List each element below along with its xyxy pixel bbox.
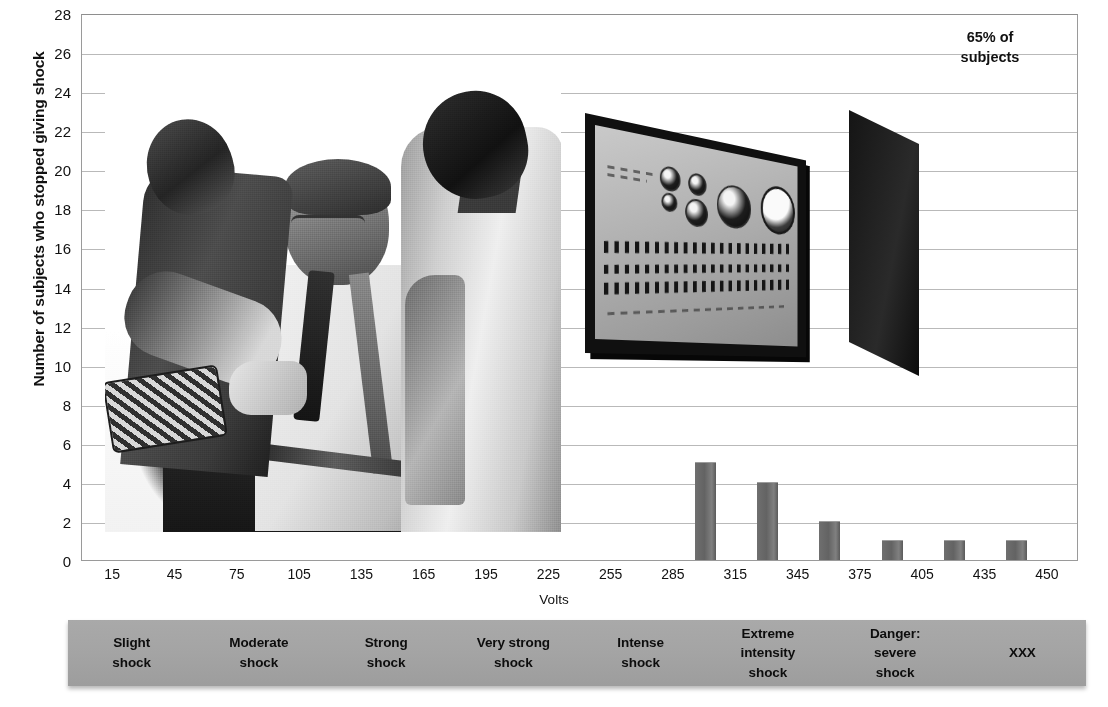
bar [757,482,778,560]
y-axis-tick-label: 6 [11,435,71,452]
shock-level-label-line: Very strong [477,633,550,653]
annotation-line-2: subjects [930,48,1050,68]
y-axis-tick-label: 8 [11,396,71,413]
y-axis-tick-label: 28 [11,6,71,23]
generator-switch-row-lower [604,280,792,295]
bar [695,462,716,560]
x-axis-tick-label: 15 [77,566,147,582]
generator-knob-small [660,165,681,193]
y-axis-tick-label: 22 [11,123,71,140]
shock-level-label-line: shock [494,653,533,673]
generator-scale-labels [607,305,788,315]
y-axis-tick-label: 14 [11,279,71,296]
chart-annotation: 65% of subjects [930,28,1050,67]
x-axis-tick-label: 435 [950,566,1020,582]
bar [1006,540,1027,560]
shock-level-label-line: shock [876,663,915,683]
x-axis-tick-label: 165 [389,566,459,582]
shock-level-label-line: shock [367,653,406,673]
x-axis-tick-label: 405 [887,566,957,582]
shock-level-label-line: Strong [365,633,408,653]
shock-level-label-line: shock [112,653,151,673]
photo-film-grain [105,75,561,532]
y-axis-tick-label: 10 [11,357,71,374]
x-axis-tick-label: 45 [139,566,209,582]
x-axis-tick-label: 195 [451,566,521,582]
y-axis-tick-label: 20 [11,162,71,179]
x-axis-tick-label: 450 [1012,566,1082,582]
x-axis-tick-label: 375 [825,566,895,582]
shock-level-label-line: Extreme [742,624,795,644]
shock-level-label-line: Danger: [870,624,920,644]
chart-root: Number of subjects who stopped giving sh… [0,0,1108,707]
milgram-learner-photo [105,75,561,532]
shock-level-label-line: intensity [741,643,796,663]
x-axis-tick-label: 285 [638,566,708,582]
generator-knob-small [688,172,706,197]
x-axis-tick-label: 255 [576,566,646,582]
generator-side-panel [849,110,919,376]
y-axis-tick-label: 24 [11,84,71,101]
y-axis-tick-label: 12 [11,318,71,335]
gridline [82,54,1077,55]
x-axis-title: Volts [0,592,1108,607]
generator-label-text [607,173,646,183]
shock-level-label-line: Moderate [229,633,288,653]
generator-knob-large [717,183,751,231]
shock-level-label-line: shock [240,653,279,673]
bar [819,521,840,560]
x-axis-tick-label: 135 [326,566,396,582]
annotation-line-1: 65% of [930,28,1050,48]
x-axis-tick-label: 315 [700,566,770,582]
shock-level-cell: Intenseshock [577,620,704,686]
shock-level-label-line: shock [749,663,788,683]
x-axis-tick-label: 105 [264,566,334,582]
y-axis-tick-label: 18 [11,201,71,218]
milgram-shock-generator-photo [581,99,971,396]
shock-level-label-line: severe [874,643,916,663]
shock-level-cell: Extremeintensityshock [704,620,831,686]
generator-switch-row-middle [604,264,792,273]
shock-level-band: SlightshockModerateshockStrongshockVery … [68,620,1086,686]
x-axis-tick-label: 345 [763,566,833,582]
shock-level-label-line: Slight [113,633,150,653]
generator-knob-medium [685,197,708,228]
y-axis-title: Number of subjects who stopped giving sh… [30,0,48,454]
shock-level-label-line: Intense [617,633,664,653]
generator-voltage-meter [761,183,795,236]
y-axis-tick-label: 0 [11,553,71,570]
shock-level-cell: XXX [959,620,1086,686]
generator-knob-small [661,192,677,213]
y-axis-tick-label: 26 [11,45,71,62]
shock-level-cell: Very strongshock [450,620,577,686]
shock-level-label-line: shock [621,653,660,673]
shock-level-cell: Danger:severeshock [832,620,959,686]
y-axis-tick-label: 2 [11,513,71,530]
shock-level-cell: Moderateshock [195,620,322,686]
shock-level-label-line: XXX [1009,643,1036,663]
y-axis-tick-label: 4 [11,474,71,491]
plot-area [81,14,1078,561]
y-axis-tick-label: 16 [11,240,71,257]
generator-switch-row-upper [604,241,792,254]
bar [944,540,965,560]
x-axis-tick-label: 225 [513,566,583,582]
bar [882,540,903,560]
shock-level-cell: Strongshock [323,620,450,686]
x-axis-tick-label: 75 [202,566,272,582]
shock-level-cell: Slightshock [68,620,195,686]
